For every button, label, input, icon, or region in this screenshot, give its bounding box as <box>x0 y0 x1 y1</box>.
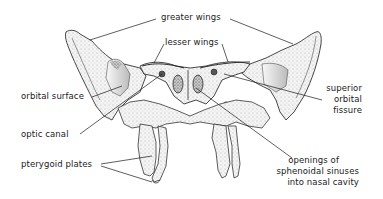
label-superior-orbital-fissure-line1: superior <box>326 84 362 93</box>
label-pterygoid-plates: pterygoid plates <box>21 160 92 169</box>
label-openings-line1: openings of <box>288 156 339 165</box>
label-orbital-surface: orbital surface <box>21 92 84 101</box>
label-greater-wings: greater wings <box>161 13 221 22</box>
sphenoid-diagram: greater wings lesser wings orbital surfa… <box>0 0 383 199</box>
label-superior-orbital-fissure-line3: fissure <box>333 106 362 115</box>
label-superior-orbital-fissure-line2: orbital <box>334 95 362 104</box>
label-lesser-wings: lesser wings <box>165 38 219 47</box>
label-openings-line2: sphenoidal sinuses <box>276 167 359 176</box>
label-openings-line3: into nasal cavity <box>287 178 359 187</box>
left-pterygoid-plates <box>138 124 168 183</box>
label-optic-canal: optic canal <box>21 130 69 139</box>
right-pterygoid-plates <box>212 124 240 178</box>
